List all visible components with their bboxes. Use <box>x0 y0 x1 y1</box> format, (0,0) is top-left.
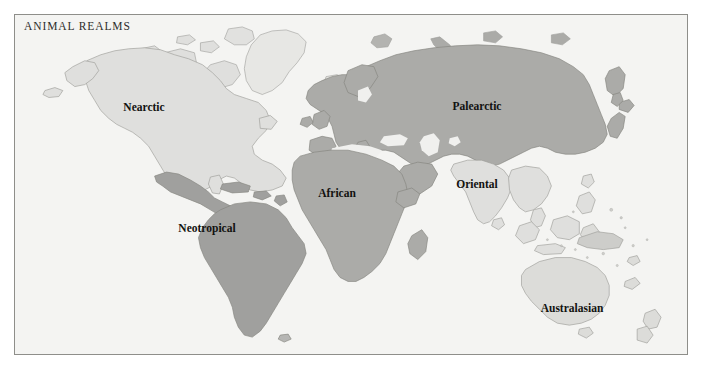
realm-label-palearctic: Palearctic <box>453 100 502 112</box>
realm-label-nearctic: Nearctic <box>123 101 164 113</box>
realm-label-oriental: Oriental <box>456 178 498 190</box>
realm-label-australasian: Australasian <box>541 302 604 314</box>
realm-label-neotropical: Neotropical <box>178 222 235 234</box>
realm-label-african: African <box>318 187 356 199</box>
map-page: ANIMAL REALMS <box>0 0 710 377</box>
map-title: ANIMAL REALMS <box>24 20 131 32</box>
map-frame: ANIMAL REALMS <box>14 14 688 355</box>
